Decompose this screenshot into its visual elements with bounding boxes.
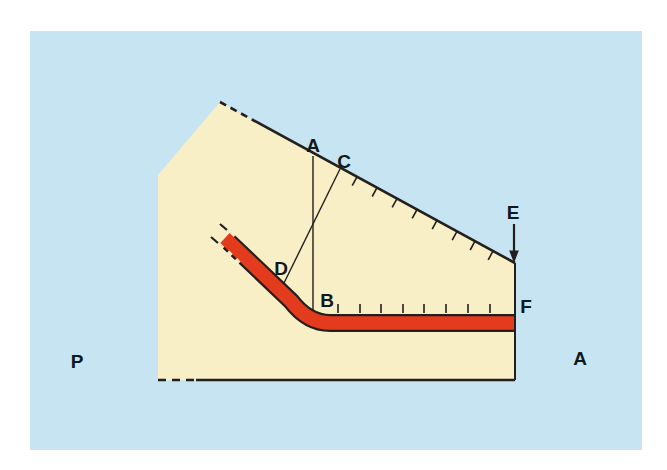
seam-dash-gap-1 [228,252,232,256]
label-p: P [71,351,84,372]
label-a-top: A [306,135,320,156]
seam-dash-gap-2 [236,259,240,263]
label-c: C [337,151,351,172]
label-d: D [274,258,288,279]
figure-page: A C E F B D P A [0,0,667,470]
label-f: F [520,296,532,317]
label-a-right: A [573,348,587,369]
geology-slope-diagram: A C E F B D P A [0,0,667,470]
label-e: E [507,202,520,223]
label-b: B [320,290,334,311]
